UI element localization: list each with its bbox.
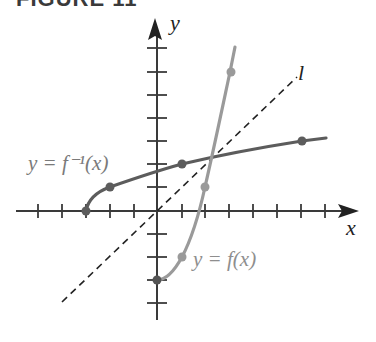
f-point [227,68,236,77]
f-inverse-curve [86,138,326,211]
f-inverse-label: y = f⁻¹(x) [26,151,108,175]
y-axis-arrow-icon [148,18,162,40]
f-inverse-point [106,183,115,192]
f-point [153,276,162,285]
f-inverse-point [298,137,307,146]
plot-area: x y l y = f⁻¹(x) y = f(x) [0,0,376,342]
f-point [201,183,210,192]
f-inverse-point [178,160,187,169]
y-axis-label: y [168,10,180,35]
f-point [178,253,187,262]
line-l [62,77,297,302]
line-l-label: l [298,60,304,85]
x-axis-label: x [345,215,356,240]
x-axis [16,204,359,218]
f-curve [157,47,235,280]
f-inverse-point [82,207,91,216]
f-label: y = f(x) [191,247,256,271]
